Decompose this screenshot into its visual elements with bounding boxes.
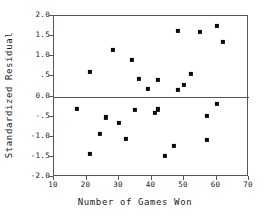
x-axis-tick-mark [216, 176, 217, 180]
plot-area [53, 15, 248, 176]
y-axis-tick-mark [49, 136, 53, 137]
data-point-marker [221, 40, 225, 44]
data-point-marker [104, 115, 108, 119]
data-point-marker [136, 77, 140, 81]
x-axis-tick-labels: 10203040506070 [0, 181, 270, 193]
y-axis-tick-label: 0.0 [36, 92, 50, 100]
x-axis-title: Number of Games Won [0, 197, 270, 207]
data-point-marker [205, 114, 209, 118]
data-point-marker [133, 108, 137, 112]
x-axis-tick-label: 20 [81, 181, 91, 189]
y-axis-tick-mark [49, 96, 53, 97]
y-axis-tick-mark [49, 75, 53, 76]
y-axis-tick-mark [49, 116, 53, 117]
y-axis-tick-label: 2.0 [36, 11, 50, 19]
y-axis-tick-mark [49, 156, 53, 157]
y-axis-title-text: Standardized Residual [4, 32, 14, 158]
y-axis-tick-label: -1.0 [31, 132, 50, 140]
data-point-marker [205, 138, 209, 142]
data-point-marker [214, 24, 218, 28]
x-axis-tick-label: 60 [211, 181, 221, 189]
data-point-marker [214, 102, 218, 106]
y-axis-tick-label: -.5 [36, 112, 50, 120]
y-axis-tick-mark [49, 15, 53, 16]
y-axis-tick-label: -1.5 [31, 152, 50, 160]
scatter-plot-figure: Standardized Residual 2.01.51.0.50.0-.5-… [0, 0, 270, 217]
y-axis-tick-mark [49, 55, 53, 56]
x-axis-tick-mark [86, 176, 87, 180]
data-point-marker [188, 72, 192, 76]
data-point-marker [182, 83, 186, 87]
data-point-marker [130, 58, 134, 62]
x-axis-tick-mark [183, 176, 184, 180]
x-axis-tick-label: 40 [146, 181, 156, 189]
data-point-marker [110, 48, 114, 52]
x-axis-tick-label: 10 [48, 181, 58, 189]
y-axis-tick-label: 1.5 [36, 31, 50, 39]
x-axis-tick-mark [248, 176, 249, 180]
data-point-marker [88, 152, 92, 156]
data-point-marker [88, 69, 92, 73]
data-point-marker [175, 29, 179, 33]
zero-reference-line [54, 97, 249, 98]
y-axis-tick-label: -2.0 [31, 172, 50, 180]
data-point-marker [198, 30, 202, 34]
data-point-marker [97, 132, 101, 136]
x-axis-tick-mark [151, 176, 152, 180]
data-point-marker [156, 78, 160, 82]
data-point-marker [175, 88, 179, 92]
data-point-marker [156, 107, 160, 111]
data-point-marker [123, 137, 127, 141]
y-axis-tick-label: 1.0 [36, 52, 50, 60]
y-axis-title: Standardized Residual [0, 0, 18, 190]
data-point-marker [75, 106, 79, 110]
x-axis-tick-mark [118, 176, 119, 180]
y-axis-tick-mark [49, 35, 53, 36]
x-axis-tick-label: 70 [243, 181, 253, 189]
data-point-marker [162, 154, 166, 158]
x-axis-tick-label: 30 [113, 181, 123, 189]
data-point-marker [146, 87, 150, 91]
x-axis-tick-label: 50 [178, 181, 188, 189]
data-point-marker [172, 144, 176, 148]
data-point-marker [117, 121, 121, 125]
x-axis-tick-mark [53, 176, 54, 180]
